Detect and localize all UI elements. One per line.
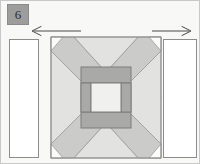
center-right-bar (121, 83, 131, 112)
right-sashing-strip (164, 40, 197, 158)
diagram-canvas: 6 (0, 0, 200, 164)
quilt-diagram-svg (1, 1, 200, 164)
right-arrow (152, 27, 191, 36)
quilt-block-group (51, 37, 161, 158)
left-arrow (32, 27, 81, 36)
center-inner-patch (91, 83, 121, 112)
center-left-bar (81, 83, 91, 112)
left-sashing-strip (10, 40, 39, 158)
